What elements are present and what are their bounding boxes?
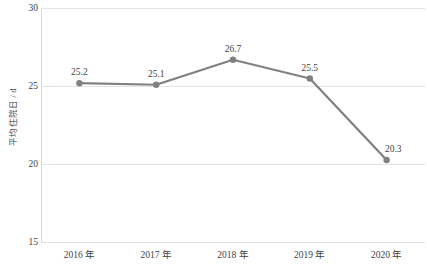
data-point-label: 25.2 (71, 67, 88, 78)
x-tick-label: 2016 年 (64, 249, 95, 261)
series-polyline (79, 60, 386, 160)
x-tick-label: 2019 年 (294, 249, 325, 261)
data-point-label: 26.7 (225, 44, 242, 55)
y-tick-label: 30 (10, 3, 38, 13)
data-point-marker (383, 157, 389, 163)
data-point-marker (153, 82, 159, 88)
x-axis-tick-labels: 2016 年2017 年2018 年2019 年2020 年 (41, 249, 425, 269)
data-point-label: 25.5 (301, 63, 318, 74)
y-tick-label: 25 (10, 81, 38, 91)
plot-area: 25.225.126.725.520.3 (41, 8, 425, 243)
x-tick-label: 2018 年 (217, 249, 248, 261)
x-tick-label: 2017 年 (141, 249, 172, 261)
data-point-marker (230, 57, 236, 63)
data-point-marker (307, 75, 313, 81)
data-point-marker (76, 80, 82, 86)
y-axis-tick-labels: 30 25 20 15 (8, 0, 38, 274)
y-tick-label: 15 (10, 237, 38, 247)
x-tick-label: 2020 年 (371, 249, 402, 261)
data-point-label: 25.1 (148, 69, 165, 80)
y-tick-label: 20 (10, 159, 38, 169)
series-markers (76, 57, 390, 164)
line-chart: 平均住院日 / d 30 25 20 15 25.225.126.725.520… (0, 0, 427, 274)
data-point-label: 20.3 (385, 144, 402, 155)
